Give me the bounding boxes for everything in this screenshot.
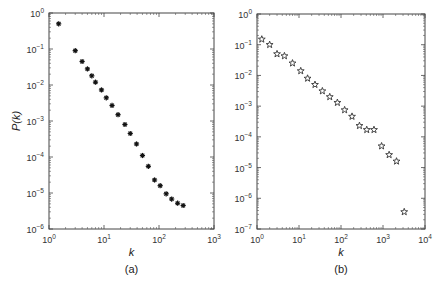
asterisk-marker <box>73 48 78 53</box>
asterisk-marker <box>104 95 109 100</box>
x-tick-label: 102 <box>152 233 166 245</box>
y-tick-label: 100 <box>30 7 44 19</box>
asterisk-marker <box>152 177 157 182</box>
x-axis-label: k <box>129 246 135 258</box>
star-marker <box>274 50 281 57</box>
figure: 10010110210310010−110−210−310−410−510−6k… <box>0 0 437 286</box>
asterisk-marker <box>169 196 174 201</box>
x-tick-label: 100 <box>42 233 56 245</box>
y-tick-label: 10−1 <box>235 39 253 51</box>
asterisk-marker <box>140 153 145 158</box>
y-tick-label: 10−2 <box>27 79 45 91</box>
x-tick-label: 103 <box>376 233 390 245</box>
star-marker <box>334 99 341 106</box>
asterisk-marker <box>128 131 133 136</box>
y-tick-label: 100 <box>238 8 252 20</box>
star-marker <box>349 113 356 120</box>
chart-b: 10010110210310410010−110−210−310−410−510… <box>235 8 433 275</box>
asterisk-marker <box>175 201 180 206</box>
y-tick-label: 10−6 <box>27 223 45 235</box>
plot-frame <box>257 14 425 229</box>
asterisk-marker <box>115 112 120 117</box>
data-points <box>56 21 186 208</box>
star-marker <box>356 122 363 129</box>
x-tick-label: 100 <box>250 233 264 245</box>
x-tick-label: 101 <box>292 233 306 245</box>
star-marker <box>386 151 393 158</box>
star-marker <box>319 87 326 94</box>
x-tick-label: 101 <box>97 233 111 245</box>
asterisk-marker <box>158 183 163 188</box>
asterisk-marker <box>181 203 186 208</box>
y-tick-label: 10−3 <box>27 115 45 127</box>
star-marker <box>312 81 319 88</box>
plot-frame <box>49 13 214 229</box>
y-tick-label: 10−6 <box>235 192 253 204</box>
y-tick-label: 10−4 <box>27 151 45 163</box>
asterisk-marker <box>93 80 98 85</box>
asterisk-marker <box>134 141 139 146</box>
y-tick-label: 10−3 <box>235 100 253 112</box>
panel-caption: (a) <box>125 263 138 275</box>
star-marker <box>401 208 408 215</box>
chart-a: 10010110210310010−110−210−310−410−510−6k… <box>10 7 221 275</box>
asterisk-marker <box>146 164 151 169</box>
star-marker <box>326 93 333 100</box>
star-marker <box>393 158 400 165</box>
panel-caption: (b) <box>334 263 347 275</box>
y-tick-label: 10−2 <box>235 69 253 81</box>
x-axis-label: k <box>338 246 344 258</box>
asterisk-marker <box>109 103 114 108</box>
asterisk-marker <box>89 73 94 78</box>
x-tick-label: 103 <box>207 233 221 245</box>
star-marker <box>363 126 370 133</box>
star-marker <box>341 106 348 113</box>
star-marker <box>297 67 304 74</box>
star-marker <box>258 36 265 43</box>
star-marker <box>289 60 296 67</box>
data-points <box>258 36 407 215</box>
asterisk-marker <box>85 66 90 71</box>
asterisk-marker <box>80 59 85 64</box>
y-tick-label: 10−4 <box>235 131 253 143</box>
asterisk-marker <box>164 191 169 196</box>
star-marker <box>371 126 378 133</box>
x-tick-label: 102 <box>334 233 348 245</box>
x-tick-label: 104 <box>418 233 432 245</box>
star-marker <box>304 75 311 82</box>
y-tick-label: 10−5 <box>27 187 45 199</box>
star-marker <box>281 52 288 59</box>
y-tick-label: 10−1 <box>27 43 45 55</box>
y-tick-label: 10−5 <box>235 162 253 174</box>
y-axis-label: P(k) <box>10 111 22 132</box>
asterisk-marker <box>56 21 61 26</box>
star-marker <box>378 143 385 150</box>
asterisk-marker <box>99 87 104 92</box>
y-tick-label: 10−7 <box>235 223 253 235</box>
asterisk-marker <box>122 122 127 127</box>
star-marker <box>266 41 273 48</box>
